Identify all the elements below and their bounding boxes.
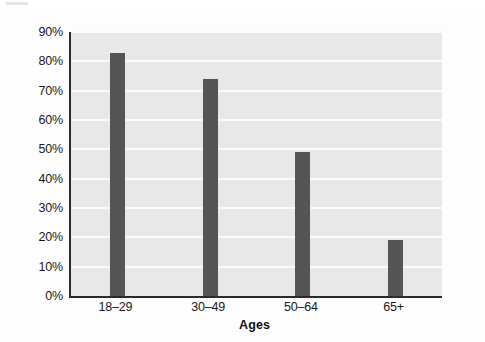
x-tick-label: 65+	[347, 300, 440, 314]
bar-chart-figure: 0%10%20%30%40%50%60%70%80%90% 18–2930–49…	[0, 0, 485, 342]
y-tick-label: 50%	[39, 142, 63, 156]
x-tick-label: 18–29	[69, 300, 162, 314]
y-tick-label: 20%	[39, 230, 63, 244]
x-tick-label: 50–64	[255, 300, 348, 314]
bar[interactable]	[110, 53, 125, 296]
y-tick-label: 0%	[45, 289, 63, 303]
bar-slot	[257, 32, 350, 296]
y-tick-label: 80%	[39, 54, 63, 68]
bar[interactable]	[295, 152, 310, 296]
plot-area	[69, 32, 442, 298]
y-tick-label: 90%	[39, 25, 63, 39]
y-axis-tick-labels: 0%10%20%30%40%50%60%70%80%90%	[0, 32, 63, 296]
y-tick-label: 70%	[39, 84, 63, 98]
bar[interactable]	[388, 240, 403, 296]
y-tick-label: 60%	[39, 113, 63, 127]
y-tick-label: 30%	[39, 201, 63, 215]
y-tick-label: 40%	[39, 172, 63, 186]
bar-slot	[349, 32, 442, 296]
bar-slot	[164, 32, 257, 296]
scan-artifact	[0, 0, 485, 10]
bars-layer	[71, 32, 442, 296]
y-tick-label: 10%	[39, 260, 63, 274]
x-tick-label: 30–49	[162, 300, 255, 314]
x-axis-tick-labels: 18–2930–4950–6465+	[69, 300, 440, 314]
bar[interactable]	[203, 79, 218, 296]
x-axis-title: Ages	[69, 318, 440, 332]
bar-slot	[71, 32, 164, 296]
